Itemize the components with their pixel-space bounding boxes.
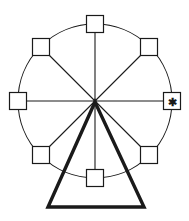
cabin-lower-left[interactable] — [33, 147, 50, 164]
cabin-top[interactable] — [87, 16, 104, 33]
cabin-upper-left[interactable] — [33, 39, 50, 56]
cabin-bottom[interactable] — [87, 170, 104, 187]
ferris-wheel-diagram: ✱ — [0, 0, 189, 221]
ferris-wheel-figure: ✱ — [0, 0, 189, 221]
asterisk-icon: ✱ — [168, 96, 177, 108]
wheel-hub — [93, 99, 96, 102]
cabin-lower-right[interactable] — [141, 147, 158, 164]
support-triangle — [48, 102, 144, 207]
cabin-upper-right[interactable] — [141, 39, 158, 56]
cabin-left[interactable] — [10, 93, 27, 110]
